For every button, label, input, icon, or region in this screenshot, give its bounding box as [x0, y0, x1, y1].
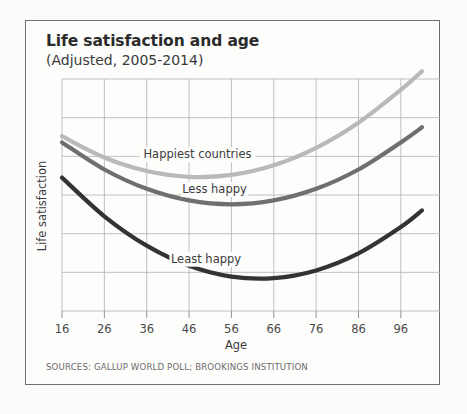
x-tick-label: 56: [224, 322, 239, 336]
x-tick-label: 66: [266, 322, 281, 336]
series-annotation-2: Least happy: [171, 252, 241, 266]
x-tick-label: 96: [394, 322, 409, 336]
x-tick-label: 86: [351, 322, 366, 336]
x-tick-label: 16: [55, 322, 70, 336]
horizontal-gridlines: [62, 79, 440, 311]
chart-panel: Life satisfaction and age (Adjusted, 200…: [25, 20, 440, 385]
series-annotations: Happiest countriesLess happyLeast happy: [140, 147, 256, 266]
x-axis-title: Age: [225, 338, 247, 352]
x-tick-label: 46: [182, 322, 197, 336]
chart-figure: Life satisfaction and age (Adjusted, 200…: [0, 0, 467, 414]
x-axis-tickmarks: [62, 311, 401, 318]
x-tick-label: 36: [139, 322, 154, 336]
x-tick-label: 76: [309, 322, 324, 336]
x-axis-tick-labels: 162636465666768696: [55, 322, 408, 336]
x-tick-label: 26: [97, 322, 112, 336]
series-annotation-1: Less happy: [182, 182, 247, 196]
line-chart-plot: 162636465666768696 Happiest countriesLes…: [26, 21, 441, 386]
y-axis-title: Life satisfaction: [35, 161, 49, 252]
source-note: SOURCES: GALLUP WORLD POLL; BROOKINGS IN…: [46, 362, 308, 372]
series-annotation-0: Happiest countries: [143, 147, 251, 161]
series-curves: [62, 71, 422, 278]
